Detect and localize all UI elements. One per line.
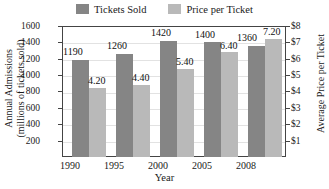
ytick-mark-1000 (58, 75, 62, 76)
xtick-label-2008: 2008 (227, 160, 265, 171)
y2tick-label-1: $1 (291, 136, 301, 146)
y2tick-mark-1 (286, 141, 290, 142)
xtick-label-1995: 1995 (95, 160, 133, 171)
y2tick-label-4: $4 (291, 86, 301, 96)
y2tick-mark-2 (286, 124, 290, 125)
y2tick-label-3: $3 (291, 103, 301, 113)
ytick-label-600: 600 (26, 103, 40, 113)
ytick-mark-1400 (58, 42, 62, 43)
y2tick-label-7: $7 (291, 37, 301, 47)
y-axis-right-title: Average Price per Ticket (315, 24, 326, 144)
ytick-label-200: 200 (26, 136, 40, 146)
y2tick-label-8: $8 (291, 21, 301, 31)
y2tick-mark-3 (286, 108, 290, 109)
ytick-mark-400 (58, 124, 62, 125)
ytick-label-400: 400 (26, 119, 40, 129)
y2tick-mark-4 (286, 91, 290, 92)
ytick-mark-200 (58, 141, 62, 142)
ytick-mark-1200 (58, 59, 62, 60)
y2tick-label-5: $5 (291, 70, 301, 80)
y-axis-left-title-line1: Annual Admissions (3, 28, 15, 150)
ytick-label-800: 800 (26, 86, 40, 96)
xtick-label-1990: 1990 (51, 160, 89, 171)
ytick-mark-800 (58, 91, 62, 92)
y2tick-mark-7 (286, 42, 290, 43)
y2tick-label-6: $6 (291, 54, 301, 64)
y2tick-label-2: $2 (291, 119, 301, 129)
y2tick-mark-5 (286, 75, 290, 76)
y2tick-mark-8 (286, 26, 290, 27)
ytick-mark-600 (58, 108, 62, 109)
x-axis-title: Year (0, 172, 329, 184)
xtick-label-2005: 2005 (183, 160, 221, 171)
xtick-label-2000: 2000 (139, 160, 177, 171)
y-axis-left-title: Annual Admissions (millions of tickets s… (3, 28, 26, 150)
ytick-mark-1600 (58, 26, 62, 27)
y2tick-mark-6 (286, 59, 290, 60)
bar-chart: Tickets Sold Price per Ticket (0, 0, 329, 189)
y-axis-left-title-line2: (millions of tickets sold) (14, 28, 26, 150)
